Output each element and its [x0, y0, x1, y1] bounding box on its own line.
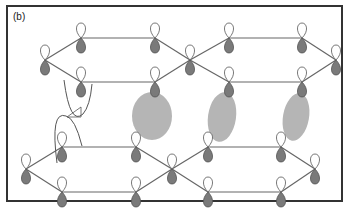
p-orbital-icon [40, 45, 49, 75]
orbital-lobe-positive [57, 132, 66, 147]
p-orbital-icon [21, 154, 30, 184]
bond-line [302, 60, 336, 82]
orbital-lobe-positive [224, 23, 233, 38]
bond-line [190, 60, 229, 82]
bond-line [172, 147, 208, 169]
orbital-lobe-negative [203, 192, 212, 207]
panel-label: (b) [13, 11, 25, 22]
orbital-lobe-positive [150, 23, 159, 38]
p-orbital-icon [167, 154, 176, 184]
bond-line [281, 147, 315, 169]
interlayer-electron-density [132, 90, 313, 143]
bond-line [190, 38, 229, 60]
orbital-lobe-negative [224, 82, 233, 97]
p-orbital-icon [310, 154, 319, 184]
bond-line [155, 38, 190, 60]
orbital-lobe-positive [131, 132, 140, 147]
orbital-lobe-negative [57, 192, 66, 207]
bond-line [26, 169, 62, 192]
bond-line [136, 169, 172, 192]
bond-line [302, 38, 336, 60]
orbital-lobe-positive [276, 132, 285, 147]
orbital-lobe-negative [150, 82, 159, 97]
annotation-line [67, 107, 81, 117]
p-orbital-icon [331, 45, 340, 75]
bond-line [172, 169, 208, 192]
bond-line [45, 60, 81, 82]
orbital-lobe-positive [297, 23, 306, 38]
orbital-lobe-negative [276, 192, 285, 207]
p-orbital-icon [185, 45, 194, 75]
orbital-lobe-negative [297, 82, 306, 97]
bond-line [136, 147, 172, 169]
orbital-diagram [0, 0, 349, 214]
orbital-lobe-positive [203, 132, 212, 147]
bond-line [281, 169, 315, 192]
orbital-lobe-negative [131, 192, 140, 207]
orbital-lobe-positive [76, 23, 85, 38]
orbital-lobe-negative [76, 82, 85, 97]
bond-line [155, 60, 190, 82]
bond-line [45, 38, 81, 60]
